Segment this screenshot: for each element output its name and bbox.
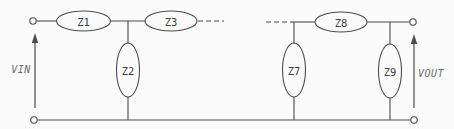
impedance-z1-label: Z1 xyxy=(77,16,90,28)
impedance-z8: Z8 xyxy=(315,12,367,32)
schematic-canvas: Z1 Z3 Z8 Z2 Z7 Z9 VIN xyxy=(0,0,454,129)
vout-label: VOUT xyxy=(418,68,445,79)
impedance-z3-label: Z3 xyxy=(165,16,178,28)
terminal-input-bottom xyxy=(31,117,37,123)
input-voltage: VIN xyxy=(11,33,38,108)
output-voltage: VOUT xyxy=(411,34,445,108)
vin-arrow-up-icon xyxy=(32,33,38,43)
impedance-z1: Z1 xyxy=(57,11,111,31)
impedance-z8-label: Z8 xyxy=(335,17,348,29)
terminal-output-top xyxy=(410,19,416,25)
impedance-z7-label: Z7 xyxy=(288,65,301,77)
impedance-z2: Z2 xyxy=(117,43,140,97)
vout-arrow-up-icon xyxy=(411,34,417,44)
terminal-input-top xyxy=(30,18,36,24)
impedance-z2-label: Z2 xyxy=(122,65,135,77)
wires xyxy=(37,21,411,120)
terminal-output-bottom xyxy=(411,117,417,123)
impedance-z9-label: Z9 xyxy=(384,66,397,78)
impedance-z9: Z9 xyxy=(379,44,402,98)
impedance-z3: Z3 xyxy=(145,11,197,31)
impedance-z7: Z7 xyxy=(283,43,306,97)
ladder-network-schematic: Z1 Z3 Z8 Z2 Z7 Z9 VIN xyxy=(0,0,454,129)
vin-label: VIN xyxy=(11,64,31,75)
